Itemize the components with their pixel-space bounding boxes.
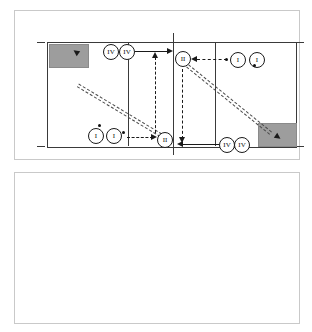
player-label: IV: [223, 142, 230, 149]
move-iv-left-line-top: [183, 144, 219, 145]
player-iv-b-top: IV: [119, 44, 135, 60]
sideline-tick-top-left: [37, 42, 45, 43]
attack-line-right-top: [215, 42, 216, 146]
player-label: II: [181, 56, 186, 63]
net-center-line-top: [173, 33, 174, 155]
sideline-tick-bottom-left: [37, 146, 45, 147]
player-iv-a-top: IV: [103, 44, 119, 60]
player-i-a-top: I: [230, 52, 246, 68]
player-label: IV: [107, 49, 114, 56]
diagram-page: IV IV II I I I I: [0, 0, 312, 332]
pass-right-to-setter-arrowhead-top: [191, 56, 197, 62]
move-setter-up-line-top: [155, 57, 156, 133]
player-i-d-top: I: [106, 128, 122, 144]
player-label: I: [237, 57, 239, 64]
ball-dot-left-a-top: [98, 124, 101, 127]
top-diagram-panel: IV IV II I I I I: [14, 10, 300, 160]
ball-dot-left-b-top: [122, 131, 125, 134]
setter-ii-top-top-panel: II: [175, 51, 191, 67]
player-iv-d-top: IV: [234, 137, 250, 153]
player-label: I: [113, 133, 115, 140]
target-zone-top-left-top-panel: [49, 44, 89, 68]
player-i-b-top: I: [249, 52, 265, 68]
ball-dot-right-b-top: [253, 64, 256, 67]
player-i-c-top: I: [88, 128, 104, 144]
sideline-tick-bottom-right: [296, 146, 304, 147]
pass-right-to-setter-line-top: [197, 59, 227, 60]
player-iv-c-top: IV: [219, 137, 235, 153]
player-label: IV: [238, 142, 245, 149]
move-setter-down-line-top: [182, 69, 183, 139]
player-label: IV: [123, 49, 130, 56]
ball-dot-right-a-top: [225, 58, 228, 61]
pass-left-to-setter-line-top: [127, 137, 153, 138]
bottom-diagram-panel: II I I III III III III: [14, 172, 300, 324]
move-iv-left-arrowhead-top: [177, 141, 183, 147]
setter-ii-bottom-top-panel: II: [157, 132, 173, 148]
player-label: I: [256, 57, 258, 64]
move-iv-right-arrowhead-top: [167, 48, 173, 54]
move-setter-up-arrowhead-top: [152, 52, 158, 58]
player-label: I: [95, 133, 97, 140]
player-label: II: [163, 137, 168, 144]
sideline-tick-top-right: [296, 42, 304, 43]
